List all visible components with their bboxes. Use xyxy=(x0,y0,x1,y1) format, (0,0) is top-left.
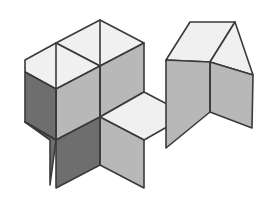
left-group xyxy=(25,20,188,188)
rg-right-near-face xyxy=(166,60,210,148)
isometric-cube-diagram xyxy=(0,0,268,205)
figure-canvas xyxy=(0,0,268,205)
